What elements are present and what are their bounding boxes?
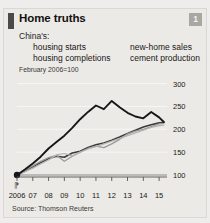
y-axis-tick-label: 250 bbox=[173, 102, 186, 111]
legend-label: housing starts bbox=[33, 42, 86, 52]
y-axis-tick-label: 200 bbox=[173, 125, 186, 134]
legend-label: cement production bbox=[130, 53, 200, 63]
chart-legend: housing starts new-home sales housing co… bbox=[19, 42, 205, 64]
chart-source: Source: Thomson Reuters bbox=[12, 205, 94, 212]
x-axis-labels: 2006070809101112131415 bbox=[7, 191, 205, 202]
legend-swatch-icon bbox=[116, 46, 127, 48]
chart-card-panel: Home truths 1 China's: housing starts ne… bbox=[3, 8, 207, 218]
y-axis-labels: 100150200250300 bbox=[164, 77, 206, 192]
x-axis-tick-label: 15 bbox=[155, 191, 163, 200]
chart-card: Home truths 1 China's: housing starts ne… bbox=[0, 0, 210, 223]
legend-label: housing completions bbox=[33, 53, 111, 63]
status-badge: 1 bbox=[189, 13, 202, 26]
card-header: Home truths 1 bbox=[4, 12, 208, 32]
x-axis-tick-label: 13 bbox=[123, 191, 131, 200]
x-axis-tick-label: 11 bbox=[92, 191, 100, 200]
legend-row: housing completions cement production bbox=[19, 53, 205, 64]
x-axis-tick-label: 09 bbox=[60, 191, 68, 200]
legend-item-housing-completions: housing completions bbox=[19, 53, 111, 63]
legend-item-new-home-sales: new-home sales bbox=[116, 42, 192, 52]
legend-swatch-icon bbox=[19, 46, 30, 49]
y-axis-tick-label: 150 bbox=[173, 148, 186, 157]
y-axis-tick-label: 300 bbox=[173, 79, 186, 88]
axis-break-icon: ⁋ bbox=[14, 181, 19, 190]
legend-item-cement-production: cement production bbox=[116, 53, 200, 63]
legend-row: housing starts new-home sales bbox=[19, 42, 205, 53]
x-axis-tick-label: 12 bbox=[108, 191, 116, 200]
x-axis-tick-label: 14 bbox=[139, 191, 147, 200]
y-axis-tick-label: 100 bbox=[173, 171, 186, 180]
x-axis-tick-label: 08 bbox=[44, 191, 52, 200]
accent-bar bbox=[8, 13, 14, 29]
legend-swatch-icon bbox=[19, 57, 30, 59]
x-axis-tick-label: 07 bbox=[29, 191, 37, 200]
legend-swatch-icon bbox=[116, 57, 127, 60]
legend-label: new-home sales bbox=[130, 42, 192, 52]
x-axis-tick-label: 10 bbox=[76, 191, 84, 200]
page-title: Home truths bbox=[19, 12, 86, 24]
x-axis-tick-label: 2006 bbox=[9, 191, 26, 200]
chart-index-note: February 2006=100 bbox=[19, 66, 79, 73]
legend-item-housing-starts: housing starts bbox=[19, 42, 86, 52]
chart-subtitle: China's: bbox=[19, 31, 49, 41]
